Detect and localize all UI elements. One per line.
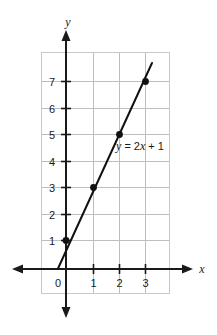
y-tick-label-5: 5 bbox=[49, 129, 55, 141]
x-axis-label: x bbox=[198, 262, 205, 276]
data-point-2-5 bbox=[116, 131, 123, 138]
x-tick-label-0: 0 bbox=[55, 277, 61, 289]
y-tick-label-6: 6 bbox=[49, 103, 55, 115]
equation-constant: + 1 bbox=[145, 140, 164, 152]
y-tick-label-3: 3 bbox=[49, 182, 55, 194]
x-axis-right-arrowhead bbox=[182, 265, 193, 274]
y-tick-label-4: 4 bbox=[49, 156, 55, 168]
y-axis-label: y bbox=[64, 15, 71, 29]
x-tick-label-1: 1 bbox=[90, 277, 96, 289]
y-tick-label-2: 2 bbox=[49, 209, 55, 221]
data-point-3-7 bbox=[142, 78, 149, 85]
graph-figure: 7 6 5 4 3 2 1 0 1 2 3 y x y = 2x + 1 bbox=[0, 0, 217, 335]
y-axis-bottom-arrowhead bbox=[62, 307, 71, 318]
equation-operator: = 2 bbox=[121, 140, 140, 152]
y-tick-label-1: 1 bbox=[49, 235, 55, 247]
data-point-1-3 bbox=[90, 184, 97, 191]
coordinate-plane-chart: 7 6 5 4 3 2 1 0 1 2 3 y x y = 2x + 1 bbox=[0, 0, 217, 335]
x-tick-label-2: 2 bbox=[116, 277, 122, 289]
data-point-0-1 bbox=[63, 237, 70, 244]
x-axis-left-arrowhead bbox=[12, 265, 23, 274]
y-tick-label-7: 7 bbox=[49, 76, 55, 88]
grid-panel-background bbox=[41, 52, 170, 294]
y-axis-top-arrowhead bbox=[62, 30, 71, 41]
x-tick-label-3: 3 bbox=[142, 277, 148, 289]
equation-annotation: y = 2x + 1 bbox=[115, 139, 164, 153]
